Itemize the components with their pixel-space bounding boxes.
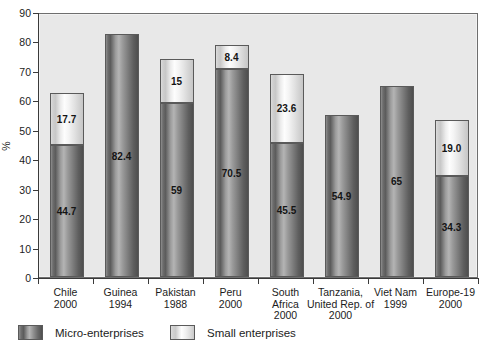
bars-layer: 44.717.782.4591570.58.445.523.654.96534.… (39, 14, 477, 277)
y-axis-tick-label: 30 (1, 185, 31, 195)
x-axis-tick (368, 278, 369, 284)
x-axis-category-line: 2000 (403, 299, 489, 311)
y-axis-line (38, 13, 39, 279)
bar-value-label: 17.7 (51, 114, 83, 125)
legend-item: Small enterprises (170, 325, 296, 340)
bar-segment-small: 23.6 (270, 74, 304, 143)
bar-value-label: 44.7 (51, 206, 83, 217)
x-axis-tick (38, 278, 39, 284)
bar-segment-micro: 45.5 (270, 143, 304, 277)
bar-segment-micro: 54.9 (325, 115, 359, 277)
bar-segment-micro: 34.3 (435, 176, 469, 277)
y-axis-tick-label: 80 (1, 37, 31, 47)
y-axis-tick-label: 70 (1, 67, 31, 77)
bar-value-label: 54.9 (326, 191, 358, 202)
y-axis-tick (33, 160, 39, 161)
bar-group: 34.319.0 (435, 12, 469, 277)
y-axis-tick (33, 72, 39, 73)
bar-group: 45.523.6 (270, 12, 304, 277)
legend-swatch-micro (18, 325, 43, 340)
bar-group: 54.9 (325, 12, 359, 277)
x-axis-category-line: Europe-19 (403, 287, 489, 299)
y-axis-tick-label: 0 (1, 273, 31, 283)
bar-segment-micro: 70.5 (215, 69, 249, 277)
y-axis-title: % (0, 131, 12, 161)
bar-group: 65 (380, 12, 414, 277)
bar-value-label: 65 (381, 176, 413, 187)
y-axis-tick (33, 42, 39, 43)
bar-value-label: 45.5 (271, 205, 303, 216)
x-axis-tick (93, 278, 94, 284)
bar-segment-small: 8.4 (215, 45, 249, 70)
y-axis-tick-label: 90 (1, 8, 31, 18)
bar-segment-micro: 82.4 (105, 34, 139, 277)
x-axis-tick (258, 278, 259, 284)
bar-value-label: 82.4 (106, 151, 138, 162)
y-axis-tick (33, 249, 39, 250)
x-axis-tick (313, 278, 314, 284)
bar-group: 44.717.7 (50, 12, 84, 277)
x-axis-category-line: 2000 (293, 310, 389, 322)
legend-item: Micro-enterprises (18, 325, 144, 340)
y-axis-label-wrap: 0 (0, 273, 31, 283)
y-axis-label-wrap: 60 (0, 96, 31, 106)
bar-segment-small: 15 (160, 59, 194, 103)
y-axis-tick (33, 190, 39, 191)
legend-label: Small enterprises (207, 327, 296, 339)
y-axis-label-wrap: 90 (0, 8, 31, 18)
bar-value-label: 70.5 (216, 168, 248, 179)
bar-group: 5915 (160, 12, 194, 277)
x-axis-tick (203, 278, 204, 284)
bar-value-label: 34.3 (436, 222, 468, 233)
bar-value-label: 15 (161, 76, 193, 87)
bar-segment-micro: 59 (160, 103, 194, 277)
x-axis-category-label: Europe-192000 (403, 287, 489, 310)
stacked-bar-chart: 44.717.782.4591570.58.445.523.654.96534.… (0, 0, 489, 350)
y-axis-tick (33, 13, 39, 14)
bar-group: 82.4 (105, 12, 139, 277)
y-axis-label-wrap: 10 (0, 244, 31, 254)
y-axis-tick-label: 10 (1, 244, 31, 254)
x-axis-tick (478, 278, 479, 284)
plot-area: 44.717.782.4591570.58.445.523.654.96534.… (38, 13, 478, 278)
bar-group: 70.58.4 (215, 12, 249, 277)
bar-value-label: 59 (161, 185, 193, 196)
x-axis-tick (423, 278, 424, 284)
legend-label: Micro-enterprises (55, 327, 144, 339)
y-axis-tick (33, 131, 39, 132)
bar-segment-micro: 65 (380, 86, 414, 277)
bar-value-label: 23.6 (271, 103, 303, 114)
chart-legend: Micro-enterprisesSmall enterprises (0, 325, 489, 347)
y-axis-tick (33, 101, 39, 102)
bar-segment-small: 19.0 (435, 120, 469, 176)
legend-swatch-small (170, 325, 195, 340)
bar-segment-micro: 44.7 (50, 145, 84, 277)
x-axis-tick (148, 278, 149, 284)
y-axis-label-wrap: 20 (0, 214, 31, 224)
bar-value-label: 19.0 (436, 143, 468, 154)
bar-segment-small: 17.7 (50, 93, 84, 145)
y-axis-tick-label: 60 (1, 96, 31, 106)
y-axis-tick-label: 20 (1, 214, 31, 224)
bar-value-label: 8.4 (216, 52, 248, 63)
y-axis-label-wrap: 70 (0, 67, 31, 77)
y-axis-label-wrap: 80 (0, 37, 31, 47)
y-axis-tick (33, 219, 39, 220)
y-axis-label-wrap: 30 (0, 185, 31, 195)
